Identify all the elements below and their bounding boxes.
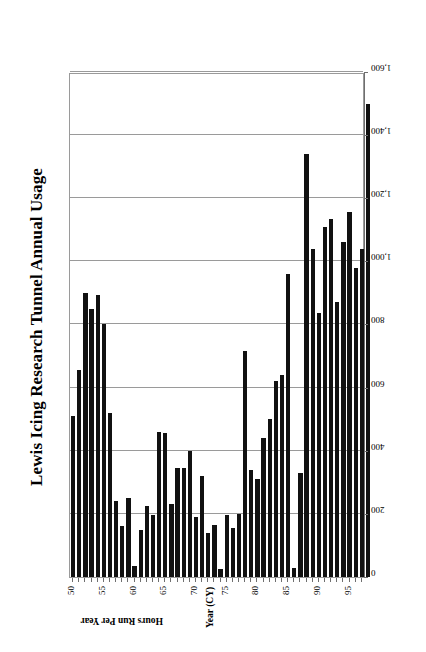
bar (298, 473, 302, 577)
bar (323, 227, 327, 577)
bar (317, 313, 321, 577)
category-axis-tick (263, 578, 264, 582)
category-axis-tick (299, 578, 300, 582)
category-axis-tick (275, 578, 276, 582)
value-axis-label: 1,600 (371, 63, 411, 73)
bar (169, 504, 173, 577)
category-axis-label: 70 (189, 586, 199, 606)
value-axis-tick (364, 198, 368, 199)
bar-row (206, 74, 210, 577)
bar (354, 268, 358, 577)
category-axis-tick (232, 578, 233, 582)
bar-row (132, 74, 136, 577)
category-axis-tick (72, 578, 73, 582)
category-axis-tick (84, 578, 85, 582)
bar-row (194, 74, 198, 577)
bar-row (366, 74, 370, 577)
value-axis-tick (364, 388, 368, 389)
category-axis-tick (281, 578, 282, 582)
bar-row (71, 74, 75, 577)
category-axis-label: 90 (312, 586, 322, 606)
bar-row (255, 74, 259, 577)
bar (89, 309, 93, 577)
category-axis-tick (355, 578, 356, 582)
value-axis-tick (364, 135, 368, 136)
bar (83, 293, 87, 577)
category-axis-tick (97, 578, 98, 582)
category-axis-tick (201, 578, 202, 582)
bar-row (96, 74, 100, 577)
bar-row (89, 74, 93, 577)
category-axis-tick (324, 578, 325, 582)
value-axis-label: 400 (371, 442, 411, 452)
bar (71, 416, 75, 577)
bar-row (243, 74, 247, 577)
bar (212, 525, 216, 577)
chart-page: Lewis Icing Research Tunnel Annual Usage… (0, 0, 426, 652)
category-axis-tick (183, 578, 184, 582)
bar (102, 325, 106, 578)
bar-row (335, 74, 339, 577)
value-axis-label: 1,200 (371, 189, 411, 199)
category-axis-tick (226, 578, 227, 582)
bar (188, 451, 192, 577)
category-axis-tick (213, 578, 214, 582)
bar (175, 468, 179, 577)
plot-area (69, 73, 364, 578)
category-axis-label: 80 (250, 586, 260, 606)
bar-row (268, 74, 272, 577)
category-axis-tick (109, 578, 110, 582)
value-axis-tick (364, 72, 368, 73)
bar-row (298, 74, 302, 577)
category-axis-tick (293, 578, 294, 582)
category-axis-label: 75 (220, 586, 230, 606)
bar-row (341, 74, 345, 577)
value-axis-label: 0 (371, 568, 411, 578)
value-axis-label: 800 (371, 316, 411, 326)
rotated-chart-wrapper: Lewis Icing Research Tunnel Annual Usage… (13, 18, 411, 636)
bar-row (274, 74, 278, 577)
value-axis-label: 200 (371, 505, 411, 515)
category-axis-tick (336, 578, 337, 582)
category-axis-tick (238, 578, 239, 582)
category-axis-tick (189, 578, 190, 582)
category-axis-tick (121, 578, 122, 582)
bar (231, 528, 235, 577)
category-axis-tick (195, 578, 196, 582)
bar (182, 468, 186, 577)
bar-row (169, 74, 173, 577)
category-axis-tick (256, 578, 257, 582)
value-axis-tick (364, 325, 368, 326)
bar (139, 530, 143, 577)
value-axis-label: 1,400 (371, 126, 411, 136)
bar (77, 370, 81, 577)
bar (268, 419, 272, 577)
bar-row (157, 74, 161, 577)
bar (108, 413, 112, 577)
bar-row (225, 74, 229, 577)
bar (126, 498, 130, 577)
bar-row (114, 74, 118, 577)
bar-row (200, 74, 204, 577)
bar (341, 242, 345, 577)
category-axis-tick (127, 578, 128, 582)
bar-row (120, 74, 124, 577)
bar (255, 479, 259, 577)
category-axis-tick (287, 578, 288, 582)
category-axis-tick (152, 578, 153, 582)
category-axis-tick (170, 578, 171, 582)
bar-row (151, 74, 155, 577)
bar-row (311, 74, 315, 577)
bar (335, 302, 339, 577)
bar (218, 569, 222, 577)
chart-title: Lewis Icing Research Tunnel Annual Usage (27, 18, 47, 636)
bar-row (102, 74, 106, 577)
value-axis-tick (364, 577, 368, 578)
bar-row (249, 74, 253, 577)
bar (132, 566, 136, 577)
bar (249, 470, 253, 577)
bar-row (317, 74, 321, 577)
bar (225, 515, 229, 577)
bar (157, 432, 161, 577)
bar (280, 375, 284, 577)
